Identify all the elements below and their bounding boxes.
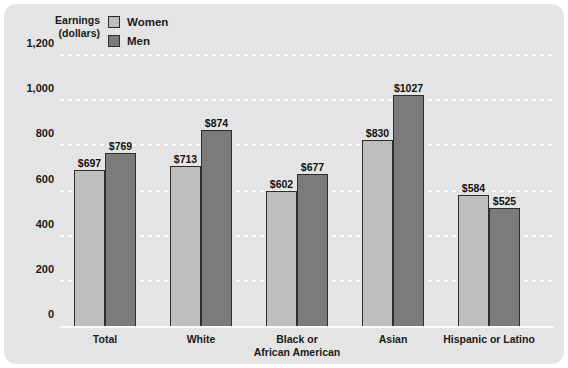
bar-women: $713: [170, 166, 201, 327]
bar-men: $677: [297, 174, 328, 327]
x-axis-label-line: African American: [227, 346, 367, 359]
bar-group: $602$677: [266, 56, 328, 327]
bar-group: $584$525: [458, 56, 520, 327]
legend-item-women: Women: [108, 12, 168, 31]
legend-swatch-women: [108, 16, 120, 28]
bar-value-label: $584: [462, 182, 485, 194]
x-axis-line: [60, 326, 554, 329]
legend-label-women: Women: [127, 16, 168, 28]
bar-women: $697: [74, 170, 105, 327]
bar-group: $697$769: [74, 56, 136, 327]
legend-label-men: Men: [127, 35, 150, 47]
y-tick-label-0: 0: [10, 308, 54, 320]
bar-value-label: $525: [493, 195, 516, 207]
legend-swatch-men: [108, 35, 120, 47]
bar-value-label: $713: [174, 153, 197, 165]
plot-area: 02004006008001,0001,200 $697$769$713$874…: [60, 56, 554, 327]
y-axis-title: Earnings (dollars): [22, 14, 100, 39]
x-axis-label-line: Hispanic or Latino: [419, 333, 559, 346]
bar-value-label: $677: [301, 161, 324, 173]
legend: WomenMen: [108, 12, 168, 50]
bar-men: $525: [489, 208, 520, 327]
y-axis-title-line1: Earnings: [22, 14, 100, 27]
bar-value-label: $769: [109, 140, 132, 152]
y-tick-label-400: 400: [10, 218, 54, 230]
chart-card: Earnings (dollars) WomenMen 020040060080…: [4, 4, 564, 364]
bar-group: $830$1027: [362, 56, 424, 327]
y-tick-label-1200: 1,200: [10, 37, 54, 49]
legend-item-men: Men: [108, 31, 168, 50]
bar-men: $1027: [393, 95, 424, 327]
bar-value-label: $1027: [394, 82, 423, 94]
x-axis-label: Hispanic or Latino: [419, 333, 559, 346]
bar-women: $830: [362, 140, 393, 327]
bar-men: $769: [105, 153, 136, 327]
y-tick-label-600: 600: [10, 173, 54, 185]
bar-value-label: $602: [270, 178, 293, 190]
bar-value-label: $874: [205, 117, 228, 129]
y-tick-label-800: 800: [10, 127, 54, 139]
bar-women: $584: [458, 195, 489, 327]
bar-women: $602: [266, 191, 297, 327]
bar-group: $713$874: [170, 56, 232, 327]
bar-men: $874: [201, 130, 232, 327]
y-tick-label-200: 200: [10, 263, 54, 275]
bar-value-label: $697: [78, 157, 101, 169]
y-tick-label-1000: 1,000: [10, 82, 54, 94]
bar-value-label: $830: [366, 127, 389, 139]
